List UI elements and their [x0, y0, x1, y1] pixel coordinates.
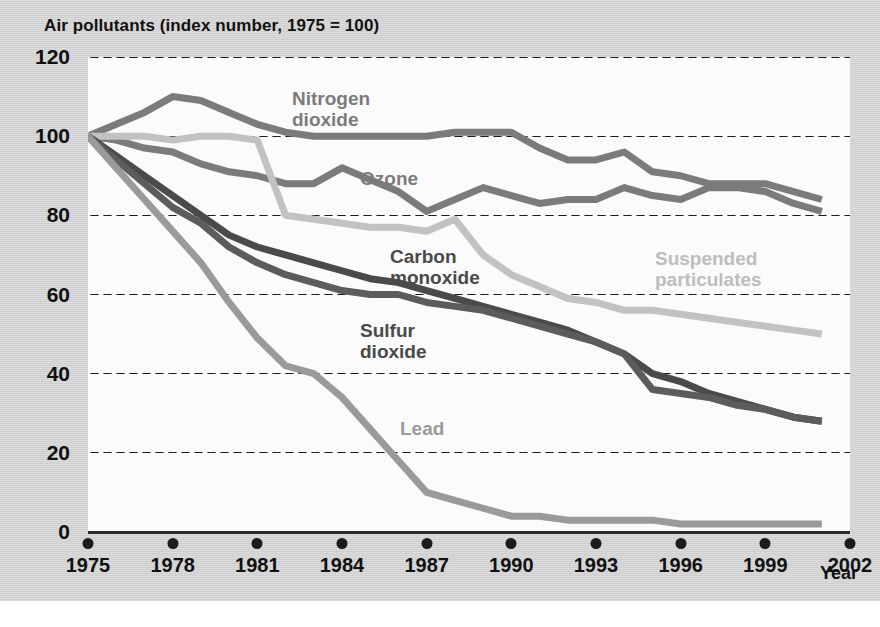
x-axis-tick-label: 1993	[574, 554, 619, 577]
x-axis-line	[88, 531, 850, 534]
series-lines	[88, 57, 850, 532]
x-axis-tick-marker	[252, 538, 263, 549]
chart-figure: Air pollutants (index number, 1975 = 100…	[0, 0, 880, 627]
x-axis-tick-marker	[760, 538, 771, 549]
x-axis-tick-marker	[675, 538, 686, 549]
y-axis-tick-label: 60	[0, 283, 78, 307]
x-axis-tick-label: 1981	[235, 554, 280, 577]
x-axis-tick-label: 1987	[404, 554, 449, 577]
chart-title: Air pollutants (index number, 1975 = 100…	[44, 16, 379, 36]
x-axis-tick-marker	[506, 538, 517, 549]
x-axis-tick-marker	[845, 538, 856, 549]
series-line-ozone	[88, 136, 822, 211]
x-axis-label: Year	[820, 563, 858, 584]
x-axis-tick-marker	[337, 538, 348, 549]
x-axis-tick-label: 1978	[150, 554, 195, 577]
x-axis-tick-label: 1999	[743, 554, 788, 577]
x-axis-tick-label: 1984	[320, 554, 365, 577]
x-axis-tick-label: 1996	[658, 554, 703, 577]
plot-area	[88, 57, 850, 532]
y-axis-tick-label: 20	[0, 441, 78, 465]
y-axis-tick-label: 40	[0, 362, 78, 386]
series-label-carbon-monoxide: Carbon monoxide	[390, 246, 480, 289]
series-label-suspended-particulates: Suspended particulates	[655, 248, 762, 291]
series-label-sulfur-dioxide: Sulfur dioxide	[360, 320, 427, 363]
y-axis-tick-label: 120	[0, 45, 78, 69]
x-axis-tick-marker	[167, 538, 178, 549]
y-axis: 120100806040200	[0, 57, 78, 532]
x-axis-tick-label: 1975	[66, 554, 111, 577]
x-axis-tick-label: 1990	[489, 554, 534, 577]
y-axis-tick-label: 80	[0, 203, 78, 227]
x-axis-tick-marker	[591, 538, 602, 549]
y-axis-tick-label: 100	[0, 124, 78, 148]
x-axis-tick-marker	[83, 538, 94, 549]
series-label-nitrogen-dioxide: Nitrogen dioxide	[292, 88, 370, 131]
series-line-nitrogen-dioxide	[88, 97, 822, 200]
x-axis: 1975197819811984198719901993199619992002	[88, 534, 850, 600]
y-axis-tick-label: 0	[0, 520, 78, 544]
series-label-ozone: Ozone	[360, 168, 418, 189]
series-label-lead: Lead	[400, 418, 444, 439]
series-line-lead	[88, 136, 822, 524]
x-axis-tick-marker	[421, 538, 432, 549]
